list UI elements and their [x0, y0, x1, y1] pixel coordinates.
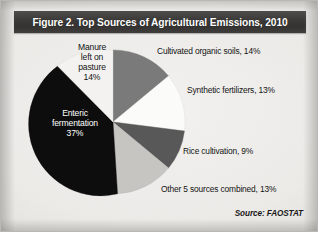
figure-title-bar: Figure 2. Top Sources of Agricultural Em… — [14, 11, 306, 33]
source-note: Source: FAOSTAT — [235, 209, 303, 218]
pie-label-manure-line-4: 14% — [61, 73, 123, 83]
pie-chart: Manure left on pasture 14% Enteric ferme… — [1, 33, 318, 232]
pie-label-rice-cultivation: Rice cultivation, 9% — [183, 147, 253, 156]
pie-label-cultivated-organic-soils: Cultivated organic soils, 14% — [157, 47, 260, 56]
pie-label-enteric-fermentation: Enteric fermentation 37% — [39, 109, 111, 139]
figure-title: Figure 2. Top Sources of Agricultural Em… — [32, 17, 287, 28]
figure-panel: Figure 2. Top Sources of Agricultural Em… — [0, 0, 318, 232]
pie-label-synthetic-fertilizers: Synthetic fertilizers, 13% — [187, 86, 275, 95]
pie-label-enteric-line-3: 37% — [39, 129, 111, 139]
pie-label-manure-left-on-pasture: Manure left on pasture 14% — [61, 43, 123, 83]
pie-label-other-5-sources-combined: Other 5 sources combined, 13% — [161, 185, 276, 194]
